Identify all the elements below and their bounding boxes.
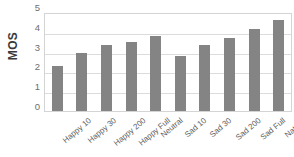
x-axis-label-slot: Neutral bbox=[143, 112, 168, 157]
bar-slot bbox=[94, 14, 119, 111]
x-axis-label-slot: Sad 200 bbox=[218, 112, 243, 157]
bar bbox=[249, 29, 260, 111]
y-axis-tick-label: 2 bbox=[26, 62, 40, 72]
bar-slot bbox=[45, 14, 70, 111]
x-axis-tick-labels: Happy 10Happy 30Happy 200Happy FullNeutr… bbox=[44, 112, 292, 157]
bar bbox=[199, 45, 210, 111]
y-axis-title: MOS bbox=[6, 22, 22, 70]
bar bbox=[101, 45, 112, 111]
bar-slot bbox=[119, 14, 144, 111]
x-axis-label-slot: Sad 30 bbox=[193, 112, 218, 157]
bar bbox=[76, 53, 87, 111]
bar bbox=[150, 36, 161, 111]
x-axis-label-slot: Happy Full bbox=[118, 112, 143, 157]
bar bbox=[273, 20, 284, 111]
x-axis-label-slot: Happy 200 bbox=[94, 112, 119, 157]
y-axis-tick-label: 3 bbox=[26, 43, 40, 53]
x-axis-tick-label: Natural bbox=[283, 116, 294, 139]
bar bbox=[224, 38, 235, 111]
x-axis-label-slot: Happy 10 bbox=[44, 112, 69, 157]
bar-slot bbox=[168, 14, 193, 111]
bar-slot bbox=[143, 14, 168, 111]
bar-chart: MOS 012345 Happy 10Happy 30Happy 200Happ… bbox=[0, 0, 294, 157]
bar-slot bbox=[242, 14, 267, 111]
bar-slot bbox=[217, 14, 242, 111]
bars-container bbox=[45, 14, 291, 111]
y-axis-tick-label: 0 bbox=[26, 102, 40, 112]
bar bbox=[175, 56, 186, 111]
y-axis-tick-label: 4 bbox=[26, 23, 40, 33]
y-axis-tick-label: 1 bbox=[26, 82, 40, 92]
y-axis-tick-labels: 012345 bbox=[26, 8, 40, 112]
bar bbox=[52, 66, 63, 111]
x-axis-label-slot: Sad 10 bbox=[168, 112, 193, 157]
bar-slot bbox=[70, 14, 95, 111]
y-axis-tick-label: 5 bbox=[26, 3, 40, 13]
x-axis-label-slot: Natural bbox=[267, 112, 292, 157]
plot-area bbox=[44, 13, 292, 112]
bar-slot bbox=[266, 14, 291, 111]
x-axis-label-slot: Happy 30 bbox=[69, 112, 94, 157]
bar bbox=[126, 42, 137, 111]
x-axis-label-slot: Sad Full bbox=[242, 112, 267, 157]
bar-slot bbox=[193, 14, 218, 111]
